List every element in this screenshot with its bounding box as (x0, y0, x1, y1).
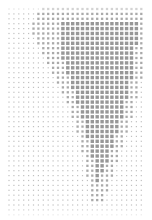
halftone-dot (37, 32, 39, 34)
halftone-dot (18, 180, 19, 181)
halftone-dot (32, 23, 34, 25)
halftone-dot (111, 165, 113, 167)
halftone-dot (67, 175, 68, 176)
halftone-dot (81, 100, 84, 103)
halftone-dot (23, 57, 24, 58)
halftone-dot (131, 151, 132, 152)
halftone-dot (116, 214, 117, 215)
halftone-dot (116, 155, 118, 157)
halftone-dot (76, 22, 79, 25)
halftone-dot (18, 170, 19, 171)
halftone-dot (101, 174, 103, 176)
halftone-dot (96, 18, 98, 20)
halftone-dot (135, 18, 137, 20)
halftone-dot (18, 116, 19, 117)
halftone-dot (61, 27, 64, 30)
halftone-dot (87, 180, 88, 181)
halftone-dot (66, 66, 69, 69)
halftone-dot (81, 125, 83, 127)
halftone-dot (71, 81, 74, 84)
halftone-dot (38, 82, 39, 83)
halftone-dot (101, 18, 103, 20)
halftone-dot (100, 164, 103, 167)
halftone-dot (116, 135, 118, 137)
halftone-dot (33, 126, 34, 127)
halftone-dot (62, 102, 63, 103)
halftone-dot (61, 51, 64, 54)
halftone-dot (87, 214, 88, 215)
halftone-dot (140, 76, 142, 78)
halftone-dot (111, 13, 113, 15)
halftone-dot (43, 77, 44, 78)
halftone-dot (136, 155, 137, 156)
halftone-dot (86, 160, 88, 162)
halftone-dot (130, 106, 132, 108)
halftone-dot (52, 13, 54, 15)
halftone-dot (91, 18, 93, 20)
halftone-dot (136, 175, 137, 176)
halftone-dot (81, 121, 83, 123)
halftone-dot (48, 185, 49, 186)
halftone-dot (18, 57, 19, 58)
halftone-dot (96, 179, 99, 182)
halftone-dot (13, 33, 14, 34)
halftone-dot (105, 96, 108, 99)
halftone-dot (76, 42, 79, 45)
halftone-dot (77, 190, 78, 191)
halftone-dot (141, 195, 142, 196)
halftone-dot (62, 126, 63, 127)
halftone-dot (91, 71, 94, 74)
halftone-dot (13, 126, 14, 127)
halftone-dot (96, 140, 99, 143)
halftone-dot (57, 72, 59, 74)
halftone-dot (136, 195, 137, 196)
halftone-dot (141, 92, 142, 93)
halftone-dot (135, 52, 137, 54)
halftone-dot (13, 23, 14, 24)
halftone-dot (23, 200, 24, 201)
halftone-dot (105, 56, 108, 59)
halftone-dot (120, 71, 123, 74)
halftone-dot (23, 67, 24, 68)
halftone-dot (66, 61, 69, 64)
halftone-dot (86, 66, 89, 69)
halftone-dot (81, 22, 84, 25)
halftone-dot (81, 76, 84, 79)
halftone-dot (91, 32, 94, 35)
halftone-dot (130, 47, 133, 50)
halftone-dot (62, 170, 63, 171)
halftone-dot (23, 214, 24, 215)
halftone-dot (76, 121, 78, 123)
halftone-dot (82, 155, 83, 156)
halftone-dot (76, 27, 79, 30)
halftone-dot (57, 141, 58, 142)
halftone-dot (126, 165, 127, 166)
halftone-dot (115, 81, 118, 84)
halftone-dot (23, 43, 24, 44)
halftone-dot (130, 86, 132, 88)
halftone-dot (125, 130, 127, 132)
halftone-dot (67, 81, 69, 83)
halftone-dot (125, 91, 128, 94)
halftone-dot (100, 47, 103, 50)
halftone-dot (105, 110, 108, 113)
halftone-dot (38, 165, 39, 166)
halftone-dot (96, 27, 99, 30)
halftone-dot (120, 61, 123, 64)
halftone-dot (136, 136, 137, 137)
halftone-dot (23, 170, 24, 171)
halftone-dot (53, 111, 54, 112)
halftone-dot (136, 111, 137, 112)
halftone-dot (28, 160, 29, 161)
halftone-dot (121, 200, 122, 201)
halftone-dot (86, 165, 88, 167)
halftone-dot (62, 185, 63, 186)
halftone-dot (77, 214, 78, 215)
halftone-dot (53, 160, 54, 161)
halftone-dot (116, 165, 117, 166)
halftone-dot (86, 56, 89, 59)
halftone-dot (125, 81, 128, 84)
halftone-dot (120, 66, 123, 69)
halftone-dot (87, 195, 88, 196)
halftone-dot (61, 47, 64, 50)
